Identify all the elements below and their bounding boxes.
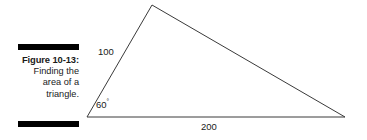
side-length-label-base: 200: [201, 122, 217, 132]
angle-value: 60: [96, 99, 107, 110]
triangle-svg: [0, 0, 367, 140]
triangle-shape: [87, 5, 345, 117]
angle-label: 60°: [96, 99, 109, 110]
side-length-label-left: 100: [98, 47, 114, 57]
figure-container: Figure 10-13: Finding the area of a tria…: [0, 0, 367, 140]
degree-symbol: °: [107, 98, 110, 105]
triangle-diagram: 100 60° 200: [0, 0, 367, 140]
